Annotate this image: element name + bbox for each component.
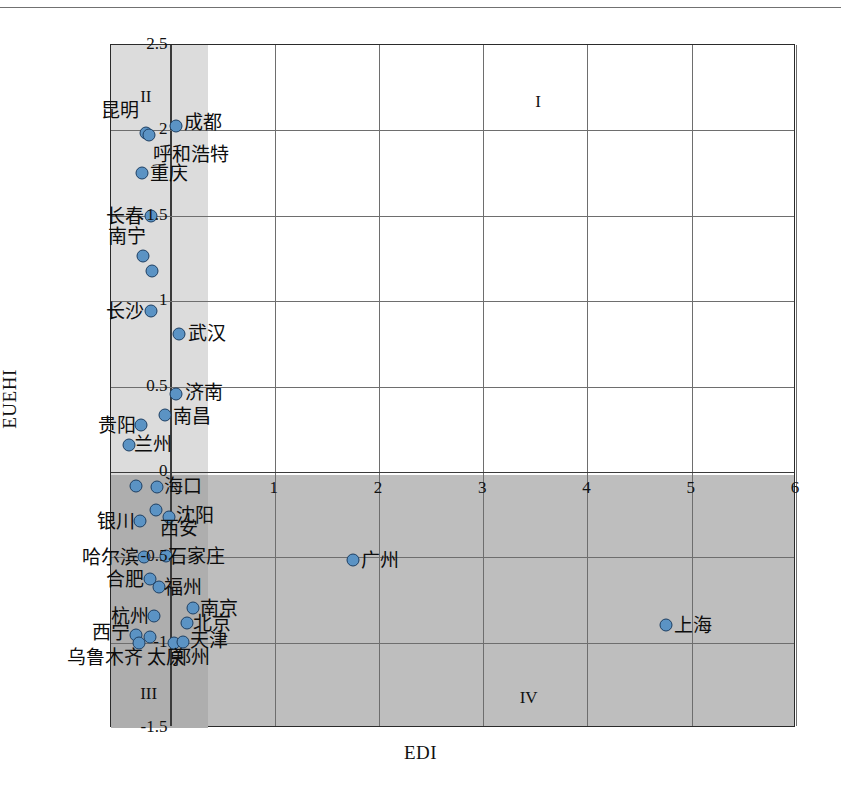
y-tick-label: 1.5 xyxy=(125,206,167,223)
data-point-label: 银川 xyxy=(97,511,135,530)
data-point-label: 石家庄 xyxy=(168,546,225,565)
y-axis-title: EUEHI xyxy=(0,369,21,428)
data-point[interactable] xyxy=(148,610,161,623)
data-point-label: 合肥 xyxy=(106,569,144,588)
y-tick-label: 0.5 xyxy=(125,377,167,394)
x-tick-label: 3 xyxy=(452,479,512,496)
data-point[interactable] xyxy=(135,167,148,180)
quadrant-IV-region xyxy=(208,475,794,726)
data-point-label: 成都 xyxy=(184,112,222,131)
quadrant-label-II: II xyxy=(140,88,151,105)
quadrant-label-III: III xyxy=(140,685,157,702)
data-point-label: 南昌 xyxy=(173,407,211,426)
x-tick-label: 2 xyxy=(348,479,408,496)
data-point-label: 济南 xyxy=(185,383,223,402)
data-point-label: 兰州 xyxy=(134,434,172,453)
data-point[interactable] xyxy=(151,481,164,494)
x-axis-title: EDI xyxy=(0,742,841,764)
data-point[interactable] xyxy=(186,601,199,614)
y-tick-label: 0 xyxy=(125,462,167,479)
y-tick-label: -1.5 xyxy=(125,718,167,735)
gridline-y-0 xyxy=(111,472,794,473)
quadrant-I-region xyxy=(208,45,794,475)
x-tick-label: 4 xyxy=(556,479,616,496)
plot-area: IIIIIIIV 昆明呼和浩特成都重庆长春南宁长沙武汉济南南昌贵阳兰州海口沈阳西… xyxy=(110,44,795,727)
y-tick-label: 1 xyxy=(125,291,167,308)
data-point-label: 武汉 xyxy=(188,323,226,342)
data-point-label: 贵阳 xyxy=(98,415,136,434)
data-point-label: 乌鲁木齐 xyxy=(67,648,143,667)
gridline-x-1 xyxy=(275,45,276,726)
y-tick-label: -1 xyxy=(125,633,167,650)
x-tick-label: 5 xyxy=(661,479,721,496)
data-point-label: 福州 xyxy=(164,578,202,597)
data-point[interactable] xyxy=(134,418,147,431)
data-point-label: 上海 xyxy=(674,615,712,634)
y-tick-label: -0.5 xyxy=(125,547,167,564)
gridline-x-4 xyxy=(587,45,588,726)
y-tick-label: 2.5 xyxy=(125,35,167,52)
gridline-x-3 xyxy=(483,45,484,726)
data-point[interactable] xyxy=(177,635,190,648)
data-point[interactable] xyxy=(180,616,193,629)
data-point[interactable] xyxy=(170,120,183,133)
gridline-x-2 xyxy=(379,45,380,726)
data-point-label: 广州 xyxy=(361,550,399,569)
data-point[interactable] xyxy=(136,249,149,262)
data-point[interactable] xyxy=(158,408,171,421)
quadrant-label-I: I xyxy=(535,93,541,110)
data-point[interactable] xyxy=(150,504,163,517)
data-point[interactable] xyxy=(133,514,146,527)
data-point-label: 西安 xyxy=(160,519,198,538)
data-point[interactable] xyxy=(129,480,142,493)
chart-page: IIIIIIIV 昆明呼和浩特成都重庆长春南宁长沙武汉济南南昌贵阳兰州海口沈阳西… xyxy=(0,0,841,798)
gridline-y-1.5 xyxy=(111,216,794,217)
data-point-label: 海口 xyxy=(164,477,202,496)
quadrant-label-IV: IV xyxy=(520,689,538,706)
data-point[interactable] xyxy=(146,265,159,278)
x-tick-label: 1 xyxy=(244,479,304,496)
data-point[interactable] xyxy=(347,553,360,566)
data-point[interactable] xyxy=(170,388,183,401)
data-point-label: 昆明 xyxy=(101,100,139,119)
data-point[interactable] xyxy=(173,328,186,341)
data-point-label: 南京 xyxy=(200,598,238,617)
data-point-label: 重庆 xyxy=(150,164,188,183)
x-tick-label: 6 xyxy=(765,479,825,496)
data-point-label: 南宁 xyxy=(108,227,146,246)
gridline-y-1 xyxy=(111,301,794,302)
page-top-rule xyxy=(0,7,841,8)
y-tick-label: 2 xyxy=(125,120,167,137)
gridline-x-6 xyxy=(796,45,797,726)
data-point[interactable] xyxy=(660,618,673,631)
